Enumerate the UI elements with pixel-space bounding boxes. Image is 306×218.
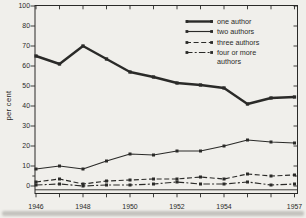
legend-swatch xyxy=(185,27,214,36)
legend-label-four-or-more-authors: four or more authors xyxy=(217,48,277,67)
legend-label-three-authors: three authors xyxy=(217,38,259,47)
data-point-four-or-more-authors xyxy=(105,184,108,187)
data-point-three-authors xyxy=(105,180,108,183)
legend-item-four-or-more-authors: four or more authors xyxy=(185,48,277,67)
data-point-two-authors xyxy=(105,160,108,163)
x-tick-label: 1948 xyxy=(75,203,90,210)
scan-artifact-band xyxy=(2,211,304,216)
data-point-two-authors xyxy=(246,139,249,142)
y-tick-label: 70 xyxy=(22,42,30,49)
data-point-one-author xyxy=(58,62,61,65)
data-point-four-or-more-authors xyxy=(199,183,202,186)
data-point-two-authors xyxy=(152,154,155,157)
data-point-one-author xyxy=(293,95,296,98)
legend-item-two-authors: two authors xyxy=(185,27,277,36)
data-point-one-author xyxy=(199,83,202,86)
figure: 0102030405060708010019461948195019521954… xyxy=(0,0,306,218)
data-point-two-authors xyxy=(270,141,273,144)
data-point-one-author xyxy=(81,44,84,47)
legend-item-three-authors: three authors xyxy=(185,38,277,47)
data-point-two-authors xyxy=(35,168,38,171)
data-point-one-author xyxy=(269,96,272,99)
data-point-two-authors xyxy=(223,145,226,148)
data-point-three-authors xyxy=(246,173,249,176)
data-point-four-or-more-authors xyxy=(58,183,61,186)
legend-swatch xyxy=(185,48,214,57)
data-point-four-or-more-authors xyxy=(246,181,249,184)
legend-item-one-author: one author xyxy=(185,17,277,26)
legend-label-two-authors: two authors xyxy=(217,27,254,36)
legend-label-one-author: one author xyxy=(217,17,251,26)
x-tick-label: 1952 xyxy=(169,203,184,210)
data-point-three-authors xyxy=(223,178,226,181)
data-point-one-author xyxy=(105,57,108,60)
data-point-two-authors xyxy=(199,150,202,153)
data-point-four-or-more-authors xyxy=(152,183,155,186)
data-point-three-authors xyxy=(176,178,179,181)
data-point-four-or-more-authors xyxy=(223,183,226,186)
legend-swatch xyxy=(185,17,214,26)
data-point-three-authors xyxy=(152,178,155,181)
x-tick-label: 1954 xyxy=(216,203,231,210)
data-point-two-authors xyxy=(58,165,61,168)
data-point-four-or-more-authors xyxy=(270,184,273,187)
data-point-one-author xyxy=(175,81,178,84)
y-tick-label: 20 xyxy=(22,142,30,149)
x-tick-label: 1957 xyxy=(287,203,302,210)
y-tick-label: 80 xyxy=(22,22,30,29)
y-axis-title: per cent xyxy=(4,84,13,128)
x-tick-label: 1946 xyxy=(28,203,43,210)
data-point-one-author xyxy=(152,75,155,78)
data-point-one-author xyxy=(222,86,225,89)
data-point-three-authors xyxy=(270,175,273,178)
data-point-three-authors xyxy=(82,183,85,186)
data-point-three-authors xyxy=(58,178,61,181)
data-point-three-authors xyxy=(199,176,202,179)
y-tick-label: 100 xyxy=(19,2,31,9)
data-point-three-authors xyxy=(35,181,38,184)
y-tick-label: 30 xyxy=(22,122,30,129)
data-point-four-or-more-authors xyxy=(293,183,296,186)
y-tick-label: 0 xyxy=(26,182,30,189)
data-point-two-authors xyxy=(82,168,85,171)
series-line-two-authors xyxy=(36,140,295,169)
data-point-two-authors xyxy=(129,153,132,156)
data-point-three-authors xyxy=(129,179,132,182)
data-point-four-or-more-authors xyxy=(129,184,132,187)
data-point-three-authors xyxy=(293,174,296,177)
data-point-four-or-more-authors xyxy=(176,181,179,184)
y-tick-label: 10 xyxy=(22,162,30,169)
y-tick-label: 40 xyxy=(22,102,30,109)
data-point-one-author xyxy=(34,54,37,57)
legend-swatch xyxy=(185,38,214,47)
x-tick-label: 1950 xyxy=(122,203,137,210)
data-point-four-or-more-authors xyxy=(35,184,38,187)
data-point-one-author xyxy=(128,70,131,73)
data-point-two-authors xyxy=(293,142,296,145)
y-tick-label: 50 xyxy=(22,82,30,89)
data-point-one-author xyxy=(246,102,249,105)
y-tick-label: 60 xyxy=(22,62,30,69)
data-point-two-authors xyxy=(176,150,179,153)
legend: one authortwo authorsthree authorsfour o… xyxy=(185,17,277,67)
